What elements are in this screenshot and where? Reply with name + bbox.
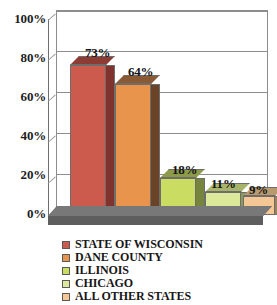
bar-state-of-wisconsin[interactable] <box>70 65 106 215</box>
y-tick-20: 20% <box>0 167 46 183</box>
bar-front-face-0 <box>70 65 106 215</box>
y-axis-labels: 100% 80% 60% 40% 20% 0% <box>0 0 46 305</box>
y-tick-80: 80% <box>0 50 46 66</box>
chart-title-clipped <box>30 0 245 5</box>
y-tick-40: 40% <box>0 128 46 144</box>
data-label-chicago: 11% <box>211 176 236 192</box>
bar-chart: 100% 80% 60% 40% 20% 0% <box>0 0 277 305</box>
y-tick-100: 100% <box>0 11 46 27</box>
data-label-all-other-states: 9% <box>249 182 268 198</box>
bar-dane-county[interactable] <box>115 84 151 215</box>
legend-item-all-other-states[interactable]: ALL OTHER STATES <box>62 290 262 303</box>
legend-swatch-icon-1 <box>62 254 70 262</box>
legend-swatch-icon-2 <box>62 267 70 275</box>
data-label-dane-county: 64% <box>128 64 153 80</box>
legend-swatch-icon-4 <box>62 293 70 301</box>
legend-swatch-icon-0 <box>62 241 70 249</box>
y-tick-60: 60% <box>0 89 46 105</box>
bar-side-face-0 <box>106 65 115 215</box>
legend-label-4: ALL OTHER STATES <box>75 289 191 304</box>
legend-swatch-icon-3 <box>62 280 70 288</box>
data-label-illinois: 18% <box>172 162 197 178</box>
bar-side-face-1 <box>151 84 160 215</box>
chart-legend: STATE OF WISCONSIN DANE COUNTY ILLINOIS … <box>62 238 262 303</box>
y-tick-0: 0% <box>0 206 46 222</box>
bar-side-face-4 <box>275 196 277 215</box>
bar-group <box>48 10 270 215</box>
bar-front-face-1 <box>115 84 151 215</box>
data-label-state-of-wisconsin: 73% <box>85 45 110 61</box>
chart-floor <box>48 206 272 226</box>
